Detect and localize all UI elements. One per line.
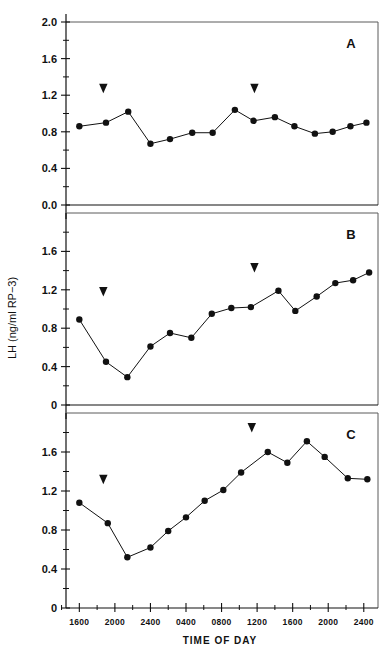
lh-series-line [79,110,366,144]
injection-arrow-icon [99,84,107,94]
y-axis-title: LH (ng/ml RP−3) [6,277,18,359]
y-tick-label: 2.0 [42,16,57,28]
data-point-marker [250,118,256,124]
data-point-marker [183,514,189,520]
y-tick-label: 0.4 [42,563,58,575]
data-point-marker [209,130,215,136]
data-point-marker [292,308,298,314]
panel-a: 0.00.40.81.21.62.0A [42,14,378,219]
data-point-marker [350,277,356,283]
injection-arrow-icon [99,287,107,297]
data-point-marker [189,130,195,136]
lh-time-of-day-figure: 0.00.40.81.21.62.0A00.40.81.21.6B00.40.8… [0,0,388,652]
y-tick-label: 0.4 [42,361,58,373]
data-point-marker [147,140,153,146]
data-point-marker [332,280,338,286]
data-point-marker [76,500,82,506]
data-point-marker [76,123,82,129]
data-point-marker [232,107,238,113]
panel-letter-c: C [346,427,356,442]
data-point-marker [105,520,111,526]
y-tick-label: 0 [51,399,57,411]
injection-arrow-icon [250,84,258,94]
data-point-marker [125,108,131,114]
data-point-marker [76,316,82,322]
data-point-marker [220,487,226,493]
plot-frame [66,213,378,405]
y-tick-label: 1.2 [42,89,57,101]
data-point-marker [124,374,130,380]
injection-arrow-icon [248,423,256,433]
data-point-marker [209,311,215,317]
data-point-marker [347,123,353,129]
x-tick-label: 2400 [140,617,160,627]
data-point-marker [238,469,244,475]
panel-c: 00.40.81.21.6160020002400040008001200160… [42,413,378,627]
data-point-marker [304,438,310,444]
y-tick-label: 0.8 [42,126,57,138]
data-point-marker [167,330,173,336]
data-point-marker [329,129,335,135]
plot-frame [66,22,378,205]
chart-canvas: 0.00.40.81.21.62.0A00.40.81.21.6B00.40.8… [0,0,388,652]
y-tick-label: 0.8 [42,524,57,536]
y-tick-label: 1.2 [42,485,57,497]
data-point-marker [321,454,327,460]
x-tick-label: 0800 [212,617,232,627]
data-point-marker [165,528,171,534]
data-point-marker [313,293,319,299]
data-point-marker [284,460,290,466]
data-point-marker [265,449,271,455]
y-tick-label: 1.6 [42,53,57,65]
injection-arrow-icon [250,263,258,273]
y-tick-label: 0.4 [42,162,58,174]
data-point-marker [275,288,281,294]
x-tick-label: 1600 [69,617,89,627]
y-tick-label: 0.0 [42,199,57,211]
data-point-marker [248,304,254,310]
data-point-marker [201,498,207,504]
injection-arrow-icon [99,475,107,485]
y-tick-label: 1.6 [42,245,57,257]
data-point-marker [124,554,130,560]
lh-series-line [79,273,369,378]
data-point-marker [103,119,109,125]
x-tick-label: 2000 [105,617,125,627]
data-point-marker [364,476,370,482]
data-point-marker [272,114,278,120]
y-tick-label: 0 [51,602,57,614]
data-point-marker [312,130,318,136]
data-point-marker [345,475,351,481]
x-tick-label: 2000 [318,617,338,627]
x-tick-label: 2400 [354,617,374,627]
data-point-marker [147,343,153,349]
plot-frame [66,413,378,608]
data-point-marker [363,119,369,125]
y-tick-label: 0.8 [42,322,57,334]
data-point-marker [188,335,194,341]
data-point-marker [228,305,234,311]
panel-letter-a: A [346,36,356,51]
x-axis-title: TIME OF DAY [183,635,258,646]
x-tick-label: 1600 [283,617,303,627]
y-tick-label: 1.6 [42,446,57,458]
data-point-marker [147,544,153,550]
data-point-marker [103,359,109,365]
panel-letter-b: B [346,227,355,242]
x-tick-label: 0400 [176,617,196,627]
y-tick-label: 1.2 [42,284,57,296]
data-point-marker [167,136,173,142]
data-point-marker [366,269,372,275]
panel-b: 00.40.81.21.6B [42,213,378,419]
x-tick-label: 1200 [247,617,267,627]
data-point-marker [291,123,297,129]
